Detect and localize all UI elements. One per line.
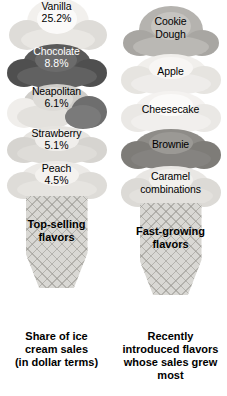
scoop-neapolitan: Neapolitan 6.1% (7, 85, 107, 129)
cone-left: Top-selling flavors (0, 196, 113, 288)
scoop-cookie-dough: Cookie Dough (121, 8, 221, 58)
caption-right-line4: most (157, 369, 183, 381)
scoop-peach: Peach 4.5% (7, 162, 107, 200)
scoop-stack-right: Cookie Dough Apple (114, 0, 227, 208)
scoop-label-vanilla: Vanilla (7, 0, 107, 13)
scoop-value-peach: 4.5% (7, 175, 107, 187)
scoop-label-cookie-dough: Cookie (121, 8, 221, 28)
scoop-stack-left: Vanilla 25.2% Chocolate 8.8% (0, 0, 113, 200)
scoop-apple: Apple (121, 55, 221, 95)
caption-right-line3: whose sales grew (124, 356, 218, 368)
cone-left-title-line2: flavors (38, 231, 74, 243)
scoop-label-brownie: Brownie (121, 130, 221, 151)
scoop-value-neapolitan: 6.1% (7, 98, 107, 110)
scoop-label-cheesecake: Cheesecake (121, 92, 221, 116)
scoop-caramel-combinations: Caramel combinations (121, 167, 221, 208)
scoop-label-caramel: Caramel (121, 167, 221, 183)
cone-right-title: Fast-growing flavors (114, 203, 227, 250)
cone-right-title-line1: Fast-growing (136, 225, 205, 237)
cone-left-title: Top-selling flavors (0, 196, 113, 243)
ice-cream-flavors-infographic: Vanilla 25.2% Chocolate 8.8% (0, 0, 227, 396)
scoop-value-vanilla: 25.2% (7, 13, 107, 25)
scoop-label-strawberry: Strawberry (7, 127, 107, 140)
cone-left-title-line1: Top-selling (28, 218, 86, 230)
scoop-chocolate: Chocolate 8.8% (7, 45, 107, 88)
scoop-label-neapolitan: Neapolitan (7, 85, 107, 98)
caption-left: Share of ice cream sales (in dollar term… (0, 330, 113, 369)
scoop-label-cookie-dough-2: Dough (121, 28, 221, 41)
scoop-label-peach: Peach (7, 162, 107, 175)
cone-right: Fast-growing flavors (114, 203, 227, 295)
caption-left-line3: (in dollar terms) (15, 356, 98, 368)
scoop-value-chocolate: 8.8% (7, 58, 107, 70)
scoop-brownie: Brownie (121, 130, 221, 170)
caption-left-line2: cream sales (25, 343, 88, 355)
caption-right: Recently introduced flavors whose sales … (114, 330, 227, 382)
scoop-label-chocolate: Chocolate (7, 45, 107, 58)
scoop-cheesecake: Cheesecake (121, 92, 221, 133)
caption-right-line2: introduced flavors (123, 343, 219, 355)
scoop-label-apple: Apple (121, 55, 221, 78)
scoop-label-caramel-2: combinations (121, 183, 221, 196)
cone-right-title-line2: flavors (152, 238, 188, 250)
caption-left-line1: Share of ice (25, 330, 87, 342)
top-selling-flavors-chart: Vanilla 25.2% Chocolate 8.8% (0, 0, 113, 396)
fast-growing-flavors-chart: Cookie Dough Apple (114, 0, 227, 396)
scoop-value-strawberry: 5.1% (7, 140, 107, 152)
scoop-strawberry: Strawberry 5.1% (7, 127, 107, 164)
scoop-vanilla: Vanilla 25.2% (7, 0, 107, 49)
caption-right-line1: Recently (148, 330, 194, 342)
